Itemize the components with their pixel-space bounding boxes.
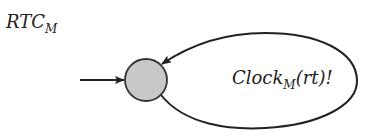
label-suffix: (rt)!: [296, 67, 333, 88]
title-subscript: M: [44, 22, 58, 36]
label-main: Clock: [232, 67, 283, 88]
automaton-diagram: RTCM ClockM(rt)!: [0, 0, 375, 137]
state-node: [125, 59, 167, 101]
transition-label: ClockM(rt)!: [232, 67, 333, 92]
title-main: RTC: [5, 11, 45, 32]
label-subscript: M: [282, 78, 296, 92]
automaton-title: RTCM: [5, 11, 58, 36]
